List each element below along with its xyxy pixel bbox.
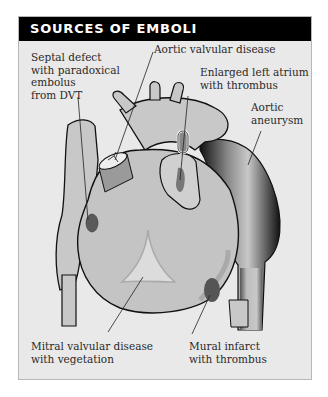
- label-septal-defect: Septal defect with paradoxical embolus f…: [31, 51, 120, 101]
- label-mitral-valvular-disease: Mitral valvular disease with vegetation: [31, 340, 153, 365]
- mural-thrombus: [204, 278, 220, 302]
- label-mural-infarct: Mural infarct with thrombus: [189, 340, 267, 365]
- label-enlarged-left-atrium: Enlarged left atrium with thrombus: [200, 66, 309, 91]
- label-aortic-aneurysm: Aortic aneurysm: [251, 101, 303, 126]
- label-aortic-valvular-disease: Aortic valvular disease: [154, 43, 275, 56]
